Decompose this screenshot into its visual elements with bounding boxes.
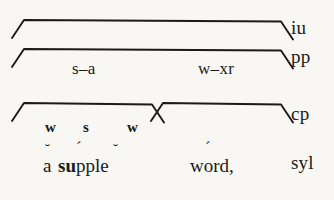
bracket-cp-right — [151, 103, 293, 123]
acute-diacritic-o: ´ — [205, 139, 211, 156]
strength-mark-weak-1: w — [45, 120, 56, 135]
breve-diacritic-e: ˘ — [113, 142, 118, 157]
syllable-word-supple-unstressed: pple — [76, 155, 109, 176]
tier-label-cp: cp — [291, 104, 309, 123]
bracket-pp — [12, 49, 293, 69]
pp-constituent-right: w–xr — [198, 60, 234, 77]
pp-constituent-left: s–a — [72, 60, 96, 77]
bracket-iu — [12, 20, 293, 40]
tier-label-syl: syl — [291, 153, 314, 172]
breve-diacritic-a: ˘ — [45, 142, 50, 157]
syllable-word-supple-stressed: su — [58, 155, 76, 176]
syllable-word-a: a — [43, 156, 51, 175]
syllable-word-word: word, — [190, 156, 234, 175]
tier-label-iu: iu — [291, 18, 306, 37]
prosodic-tree-diagram: s–a w–xr w s w a supple word, ˘ ´ ˘ ´ iu… — [0, 0, 334, 200]
tier-label-pp: pp — [291, 47, 310, 66]
strength-mark-strong: s — [83, 120, 89, 135]
acute-diacritic-u: ´ — [76, 139, 82, 156]
strength-mark-weak-2: w — [127, 120, 138, 135]
syllable-word-supple: supple — [58, 156, 109, 175]
